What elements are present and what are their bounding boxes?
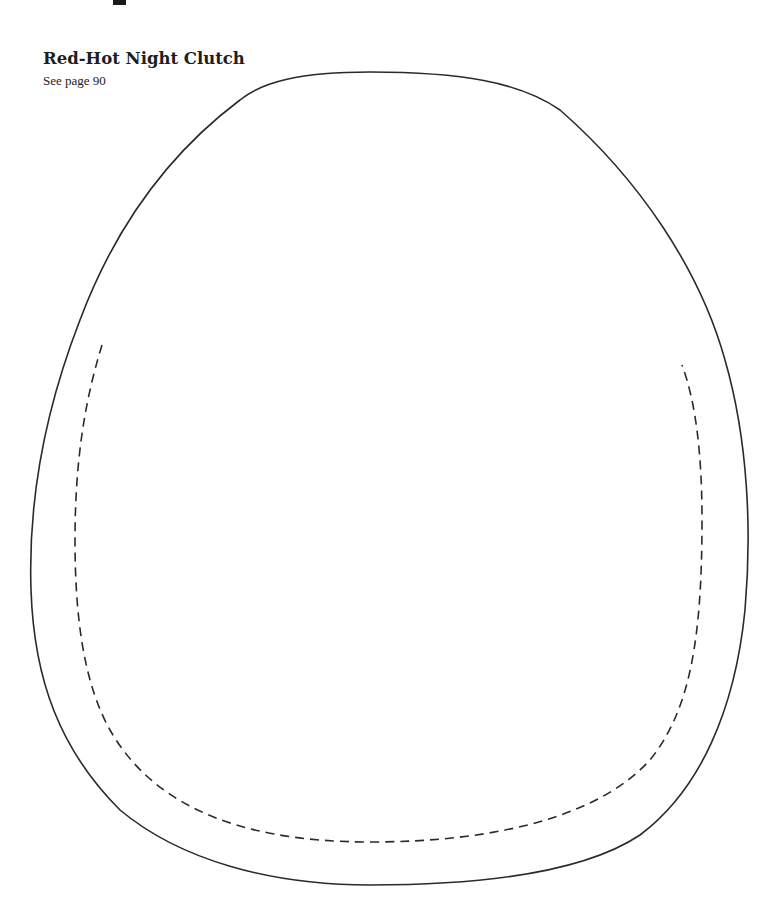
cutting-outline [31,72,748,885]
pattern-template [0,0,760,916]
stitch-line [75,345,702,842]
